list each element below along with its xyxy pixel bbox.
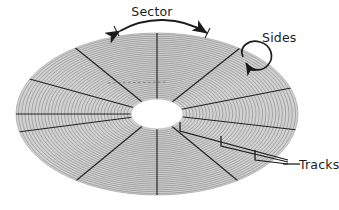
tracks-label: Tracks [298,157,339,172]
sides-label: Sides [262,30,297,45]
disk-platter-diagram: Sector Sides Tracks [0,0,339,210]
sector-arc-arrow [120,20,207,33]
spindle-hub-hole [131,99,183,129]
diagram-canvas: Sector Sides Tracks [0,0,339,210]
sector-label: Sector [131,4,173,19]
platter-group [14,26,298,200]
sector-callout: Sector [120,4,207,33]
